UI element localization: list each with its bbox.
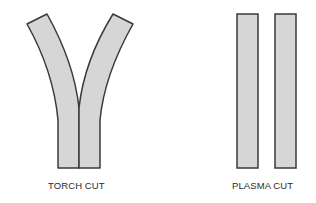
torch-cut-label: TORCH CUT [48,180,105,191]
torch-cut-figure [27,14,133,168]
torch-left-piece [27,14,79,168]
plasma-left-piece [237,14,258,168]
plasma-right-piece [275,14,296,168]
diagram-canvas [0,0,316,203]
plasma-cut-label: PLASMA CUT [232,180,293,191]
plasma-cut-figure [237,14,296,168]
torch-right-piece [79,14,133,168]
